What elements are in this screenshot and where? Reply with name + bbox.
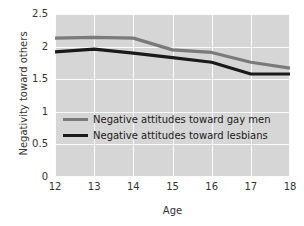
y-tick-label: 0.5: [10, 139, 48, 149]
x-axis-title: Age: [55, 205, 290, 216]
chart-figure: Negative attitudes toward gay men Negati…: [0, 0, 304, 226]
x-tick-label: 12: [40, 182, 70, 192]
x-tick-label: 13: [79, 182, 109, 192]
y-tick-label: 1.5: [10, 74, 48, 84]
y-tick-label: 1: [10, 107, 48, 117]
y-tick-label: 0: [10, 172, 48, 182]
x-tick-label: 18: [275, 182, 304, 192]
x-tick-label: 16: [197, 182, 227, 192]
y-axis-title: Negativity toward others: [18, 14, 29, 174]
x-tick-label: 17: [236, 182, 266, 192]
y-tick-label: 2.5: [10, 9, 48, 19]
x-tick-label: 15: [158, 182, 188, 192]
x-tick-label: 14: [118, 182, 148, 192]
y-tick-label: 2: [10, 42, 48, 52]
y-axis-ticks: 2.5 2 1.5 1 0.5 0: [0, 0, 304, 226]
